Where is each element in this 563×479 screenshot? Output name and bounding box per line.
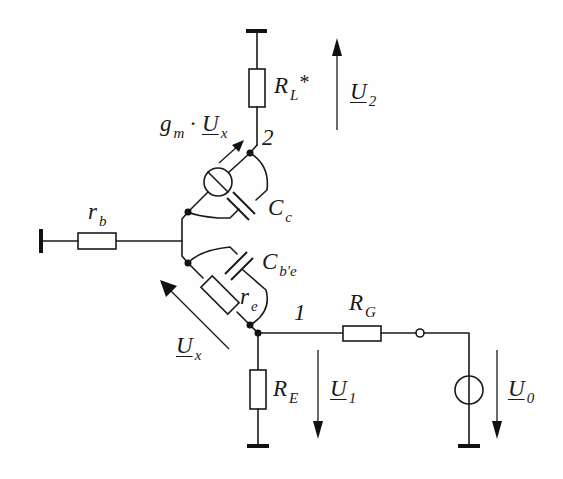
label-re: re: [240, 285, 258, 308]
input-terminal: [416, 329, 424, 337]
U1-arrow-head: [313, 421, 323, 439]
label-main: U: [350, 79, 367, 104]
label-U0: U0: [508, 377, 534, 400]
label-main: U: [330, 376, 347, 401]
U2-arrow-head: [332, 38, 342, 56]
label-RL: RL*: [274, 74, 309, 97]
wire: [188, 263, 203, 278]
label-sub: G: [365, 304, 376, 320]
label-rb: rb: [88, 200, 106, 223]
label-sub: c: [285, 209, 292, 225]
label-main: C: [268, 195, 283, 220]
wire: [250, 153, 267, 200]
label-var-sub: x: [221, 125, 228, 141]
wire: [188, 209, 239, 218]
resistor-RL: [249, 69, 265, 107]
label-main: R: [349, 290, 363, 315]
label-U1: U1: [330, 377, 356, 400]
wire: [188, 247, 237, 263]
label-U2: U2: [350, 80, 376, 103]
wire: [188, 192, 208, 212]
label-RG: RG: [349, 291, 376, 314]
label-main: U: [176, 333, 193, 358]
label-sub: E: [289, 390, 298, 406]
label-main: C: [262, 249, 277, 274]
label-suffix: *: [299, 71, 309, 93]
wire: [228, 153, 250, 173]
label-sub: 2: [369, 93, 377, 109]
gm-arrow: [219, 146, 238, 163]
label-sub: e: [251, 298, 258, 314]
label-main: r: [240, 284, 249, 309]
label-sub: m: [174, 125, 185, 141]
resistor-RG: [343, 326, 381, 341]
label-RE: RE: [273, 377, 298, 400]
label-Cc: Cc: [268, 196, 292, 219]
label-sub: x: [195, 347, 202, 363]
label-Cbe: Cb'e: [262, 250, 297, 273]
label-main: g: [160, 111, 172, 136]
label-node-2: 2: [262, 126, 274, 149]
circuit-diagram: RL* U2 2 gm·Ux Cc rb Cb'e re 1 RG Ux RE …: [0, 0, 563, 479]
label-main: U: [508, 376, 525, 401]
resistor-rb: [78, 233, 116, 249]
label-main: r: [88, 199, 97, 224]
label-sub: 0: [527, 390, 535, 406]
label-sub: L: [290, 87, 298, 103]
label-main: R: [273, 376, 287, 401]
label-Ux: Ux: [176, 334, 201, 357]
label-operator: ·: [189, 111, 197, 136]
label-var: U: [202, 111, 219, 136]
resistor-RE: [250, 370, 266, 409]
label-main: R: [274, 73, 288, 98]
resistor-re: [201, 276, 239, 314]
label-node-1: 1: [294, 301, 306, 324]
circuit-schematic: [0, 0, 563, 479]
wire: [182, 212, 188, 263]
label-sub: b: [99, 213, 107, 229]
U0-arrow-head: [492, 421, 502, 439]
label-gm-Ux: gm·Ux: [160, 112, 227, 135]
label-sub: 1: [349, 390, 357, 406]
label-sub: b'e: [279, 263, 296, 279]
